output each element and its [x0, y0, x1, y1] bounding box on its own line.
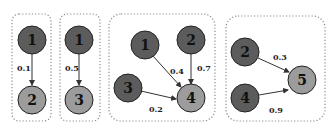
node-1: 1	[131, 31, 159, 59]
node-label: 5	[297, 72, 307, 88]
edge-weight: 0.9	[269, 105, 283, 115]
node-3: 3	[114, 74, 142, 102]
panel-4: 0.3 0.9 2 4 5	[226, 16, 325, 121]
node-3: 3	[65, 86, 93, 114]
node-label: 2	[186, 32, 196, 48]
node-label: 3	[74, 92, 84, 108]
node-5: 5	[288, 66, 316, 94]
edge-weight: 0.7	[197, 63, 211, 73]
panel-1: 0.1 1 2	[12, 14, 51, 121]
node-label: 1	[27, 32, 37, 48]
edge-weight: 0.3	[273, 52, 287, 62]
panel-3: 0.4 0.7 0.2 1 2 3 4	[109, 14, 215, 121]
node-4: 4	[177, 84, 205, 112]
edge-weight: 0.2	[149, 104, 163, 114]
node-1: 1	[65, 26, 93, 54]
edge-weight: 0.4	[170, 66, 184, 76]
edge-weight: 0.1	[17, 63, 31, 73]
edge-4-5	[259, 90, 288, 95]
node-label: 1	[140, 37, 150, 53]
node-2: 2	[231, 38, 259, 66]
node-2: 2	[177, 26, 205, 54]
dependency-diagram: 0.1 1 2 0.5 1 3 0.4 0.7 0.2	[0, 0, 332, 136]
node-1: 1	[18, 26, 46, 54]
node-label: 2	[240, 44, 250, 60]
edge-3-4	[141, 91, 176, 99]
node-label: 4	[186, 90, 196, 106]
node-label: 4	[240, 90, 250, 106]
node-4: 4	[231, 84, 259, 112]
node-2: 2	[18, 86, 46, 114]
panel-2: 0.5 1 3	[60, 14, 100, 121]
node-label: 3	[123, 80, 133, 96]
node-label: 1	[74, 32, 84, 48]
node-label: 2	[27, 92, 37, 108]
edge-weight: 0.5	[65, 63, 79, 73]
